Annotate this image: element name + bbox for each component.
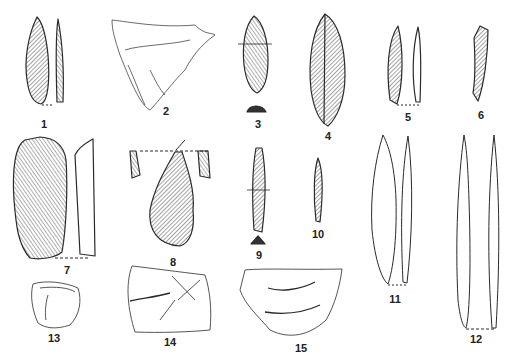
figure-9-drawing [247,148,270,244]
artifact-plate-drawing [0,0,510,364]
figure-1-drawing [26,17,63,105]
figure-label-3: 3 [255,119,261,130]
figure-label-4: 4 [325,131,331,142]
figure-label-15: 15 [295,343,307,354]
figure-label-6: 6 [478,110,484,121]
figure-label-10: 10 [312,229,324,240]
figure-4-drawing [310,14,345,126]
figure-8-drawing [130,140,210,246]
figure-label-5: 5 [405,112,411,123]
figure-2-drawing [112,20,215,110]
figure-6-drawing [473,26,488,101]
figure-10-drawing [314,158,322,222]
figure-11-drawing [372,135,412,285]
figure-label-8: 8 [170,257,176,268]
figure-3-drawing [238,16,272,112]
figure-12-drawing [457,135,499,329]
figure-label-13: 13 [48,333,60,344]
figure-label-9: 9 [256,250,262,261]
figure-5-drawing [388,26,421,105]
figure-label-12: 12 [470,334,482,345]
figure-label-14: 14 [164,337,176,348]
figure-15-drawing [240,269,342,335]
figure-label-7: 7 [64,265,70,276]
figure-13-drawing [32,282,80,328]
figure-label-11: 11 [389,294,401,305]
figure-label-2: 2 [163,106,169,117]
figure-label-1: 1 [41,119,47,130]
figure-7-drawing [13,137,95,259]
figure-14-drawing [128,266,211,332]
